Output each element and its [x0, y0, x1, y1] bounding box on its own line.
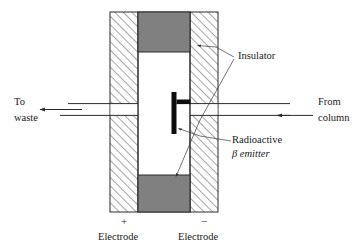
beta-emitter-detector-diagram: Insulator Radioactive β emitter To waste… — [0, 0, 363, 251]
label-electrode-left: Electrode — [98, 231, 139, 242]
label-electrode-left-sign: + — [121, 215, 127, 227]
insulator-block-top — [138, 12, 190, 52]
negative-electrode-block — [190, 12, 218, 212]
label-insulator: Insulator — [238, 50, 276, 61]
label-from-column-line2: column — [318, 112, 350, 123]
label-to-waste-line2: waste — [14, 112, 38, 123]
label-to-waste-line1: To — [14, 96, 25, 107]
positive-electrode-block — [110, 12, 138, 212]
insulator-block-bottom — [138, 175, 190, 212]
label-electrode-right-sign: − — [201, 215, 207, 227]
label-beta-emitter: β emitter — [231, 148, 271, 159]
label-from-column-line1: From — [318, 96, 341, 107]
label-radioactive: Radioactive — [232, 134, 282, 145]
label-electrode-right: Electrode — [178, 231, 219, 242]
